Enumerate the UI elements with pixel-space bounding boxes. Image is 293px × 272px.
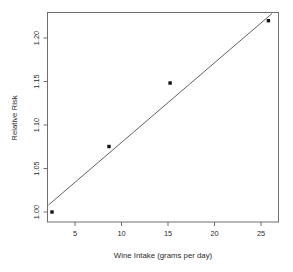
- y-axis-title: Relative Risk: [10, 95, 19, 141]
- x-axis-title: Wine Intake (grams per day): [114, 251, 213, 260]
- y-tick-label-3: 1.15: [32, 74, 41, 88]
- data-point-3: [267, 19, 270, 22]
- data-point-2: [168, 81, 171, 84]
- x-tick-label-1: 10: [117, 229, 125, 238]
- y-tick-label-0: 1.00: [32, 205, 41, 219]
- data-point-1: [107, 145, 110, 148]
- x-tick-label-3: 20: [210, 229, 218, 238]
- y-tick-label-1: 1.05: [32, 161, 41, 175]
- y-tick-label-2: 1.10: [32, 118, 41, 132]
- chart-figure: 1.00 1.05 1.10 1.15 1.20 5 10 15 20 25 W…: [0, 0, 293, 272]
- data-point-0: [50, 210, 53, 213]
- y-tick-label-4: 1.20: [32, 31, 41, 45]
- x-tick-label-4: 25: [257, 229, 265, 238]
- figure-background: [0, 0, 293, 272]
- scatter-plot: 1.00 1.05 1.10 1.15 1.20 5 10 15 20 25 W…: [0, 0, 293, 272]
- x-tick-label-2: 15: [164, 229, 172, 238]
- x-tick-label-0: 5: [73, 229, 77, 238]
